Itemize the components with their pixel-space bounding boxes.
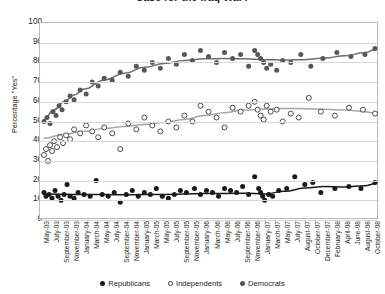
data-point <box>198 192 203 197</box>
data-point <box>72 127 77 132</box>
data-point <box>222 125 227 130</box>
data-point <box>255 52 260 57</box>
data-point <box>96 135 101 140</box>
x-axis-tick-label: March-05 <box>153 221 160 249</box>
data-point <box>42 190 47 195</box>
data-point <box>55 145 60 150</box>
data-point <box>258 190 263 195</box>
x-axis-tick-label: November-04 <box>133 221 140 261</box>
x-axis-tick-label: July-05 <box>173 221 180 242</box>
data-point <box>64 133 69 138</box>
data-point <box>65 182 70 187</box>
legend-item-democrats[interactable]: Democrats <box>240 279 285 288</box>
data-point <box>166 56 171 61</box>
series-independents <box>42 95 378 163</box>
data-point <box>88 194 93 199</box>
data-point <box>332 186 337 191</box>
x-axis-tick-label: January-05 <box>143 221 150 254</box>
gridline <box>40 200 377 201</box>
data-point <box>222 50 227 55</box>
data-point <box>238 109 243 114</box>
x-axis-tick-label: November-03 <box>73 221 80 261</box>
data-point <box>182 113 187 118</box>
x-axis-tick-label: June-08 <box>354 221 361 245</box>
data-point <box>192 186 197 191</box>
x-axis-tick-label: March-06 <box>214 221 221 249</box>
data-point <box>160 194 165 199</box>
data-point <box>358 186 363 191</box>
data-point <box>134 64 139 69</box>
data-point <box>148 192 153 197</box>
data-point <box>296 115 301 120</box>
x-axis-tick-label: August-08 <box>364 221 371 251</box>
data-point <box>78 131 83 136</box>
data-point <box>57 103 62 108</box>
legend-item-republicans[interactable]: Republicans <box>100 279 150 288</box>
data-point <box>198 103 203 108</box>
data-point <box>68 93 73 98</box>
y-axis-tick-label: 20 <box>8 175 42 184</box>
data-point <box>298 52 303 57</box>
x-axis-tick-label: March-04 <box>93 221 100 249</box>
y-axis-tick-label: 40 <box>8 135 42 144</box>
data-point <box>346 184 351 189</box>
data-point <box>48 143 53 148</box>
data-point <box>82 192 87 197</box>
gridline <box>40 161 377 162</box>
x-axis-tick-label: May-07 <box>284 221 291 243</box>
x-axis-tick-label: July-07 <box>294 221 301 242</box>
data-point <box>274 68 279 73</box>
x-axis-tick-label: December-07 <box>324 221 331 261</box>
chart-title: Case for the Iraq War? <box>0 0 385 4</box>
gridline <box>40 62 377 63</box>
data-point <box>360 107 365 112</box>
data-point <box>216 194 221 199</box>
x-axis-tick-label: September-04 <box>123 221 130 263</box>
data-point <box>270 194 275 199</box>
x-axis-tick-label: May-03 <box>43 221 50 243</box>
data-point <box>302 182 307 187</box>
data-point <box>228 188 233 193</box>
data-point <box>142 68 147 73</box>
data-point <box>266 192 271 197</box>
gridline <box>40 122 377 123</box>
data-point <box>318 190 323 195</box>
data-point <box>264 103 269 108</box>
data-point <box>255 107 260 112</box>
trend-line <box>44 50 375 120</box>
legend-label: Independents <box>176 279 222 288</box>
data-point <box>42 152 47 157</box>
data-point <box>178 188 183 193</box>
chart-legend: RepublicansIndependentsDemocrats <box>0 279 385 288</box>
x-axis-tick-label: November-05 <box>193 221 200 261</box>
gridline <box>40 181 377 182</box>
data-point <box>264 66 269 71</box>
data-point <box>252 48 257 53</box>
data-point <box>222 186 227 191</box>
legend-item-independents[interactable]: Independents <box>168 279 222 288</box>
data-point <box>258 56 263 61</box>
data-point <box>274 107 279 112</box>
x-axis-tick-label: September-05 <box>183 221 190 263</box>
data-point <box>84 123 89 128</box>
data-point <box>102 125 107 130</box>
data-point <box>230 105 235 110</box>
data-point <box>258 113 263 118</box>
chart-figure: Case for the Iraq War? Percentage "Yes" … <box>0 0 385 294</box>
data-point <box>198 48 203 53</box>
y-axis-tick-label: 10 <box>8 194 42 203</box>
data-point <box>158 129 163 134</box>
gridline <box>40 141 377 142</box>
data-point <box>306 95 311 100</box>
data-point <box>58 135 63 140</box>
data-point <box>100 192 105 197</box>
data-point <box>260 194 265 199</box>
data-point <box>172 192 177 197</box>
data-point <box>54 113 59 118</box>
data-point <box>362 52 367 57</box>
data-point <box>268 109 273 114</box>
open-circle-icon <box>168 281 173 286</box>
series-democrats <box>42 46 378 126</box>
data-point <box>90 129 95 134</box>
x-axis-tick-label: July-06 <box>234 221 241 242</box>
